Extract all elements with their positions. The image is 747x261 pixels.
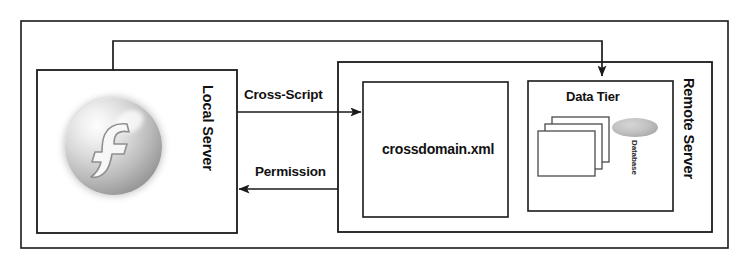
documents-stack-icon — [538, 117, 609, 176]
database-cylinder-icon — [612, 118, 658, 137]
permission-label: Permission — [255, 165, 326, 179]
flash-player-logo-icon — [65, 98, 162, 195]
local-server-label: Local Server — [201, 85, 216, 171]
data-tier-label: Data Tier — [566, 90, 620, 103]
database-label: Database — [630, 140, 638, 175]
remote-server-label: Remote Server — [682, 78, 697, 179]
crossdomain-xml-label: crossdomain.xml — [382, 142, 494, 156]
flash-logo-glyph — [65, 98, 162, 195]
cross-domain-architecture-diagram: Cross-Script Permission Local Server Rem… — [0, 0, 747, 261]
cross-script-label: Cross-Script — [244, 88, 323, 102]
